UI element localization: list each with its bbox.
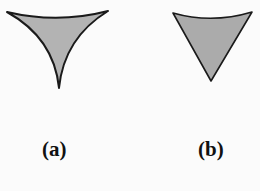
panel-label-a: (a) xyxy=(42,137,67,162)
shape-a-concave-triangle xyxy=(7,11,108,88)
shape-b-triangle xyxy=(173,12,252,81)
figure-canvas xyxy=(0,0,260,191)
panel-label-b: (b) xyxy=(198,137,224,162)
